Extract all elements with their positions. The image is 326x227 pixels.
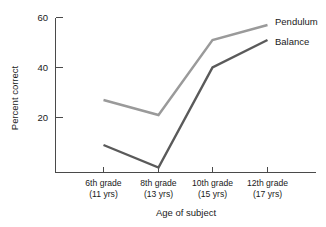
chart-figure: Percent correct 60 40 20 6th grade (11 y…: [0, 0, 326, 227]
y-tick-label-40: 40: [37, 62, 48, 73]
x-category-label-2-top: 10th grade: [192, 178, 233, 188]
legend-label-balance: Balance: [275, 36, 309, 47]
series-line-balance: [104, 40, 268, 168]
x-axis-title: Age of subject: [156, 207, 217, 218]
y-tick-label-20: 20: [37, 112, 48, 123]
x-category-label-0-top: 6th grade: [85, 178, 122, 188]
series-line-pendulum: [104, 25, 268, 115]
x-category-label-3-bottom: (17 yrs): [253, 189, 282, 199]
x-category-label-1-top: 8th grade: [140, 178, 177, 188]
line-chart: Percent correct 60 40 20 6th grade (11 y…: [0, 0, 326, 227]
y-axis-title: Percent correct: [9, 65, 20, 130]
legend-label-pendulum: Pendulum: [275, 16, 318, 27]
y-tick-label-60: 60: [37, 12, 48, 23]
x-category-label-1-bottom: (13 yrs): [144, 189, 173, 199]
x-category-label-3-top: 12th grade: [247, 178, 288, 188]
x-category-label-2-bottom: (15 yrs): [198, 189, 227, 199]
x-category-label-0-bottom: (11 yrs): [89, 189, 118, 199]
